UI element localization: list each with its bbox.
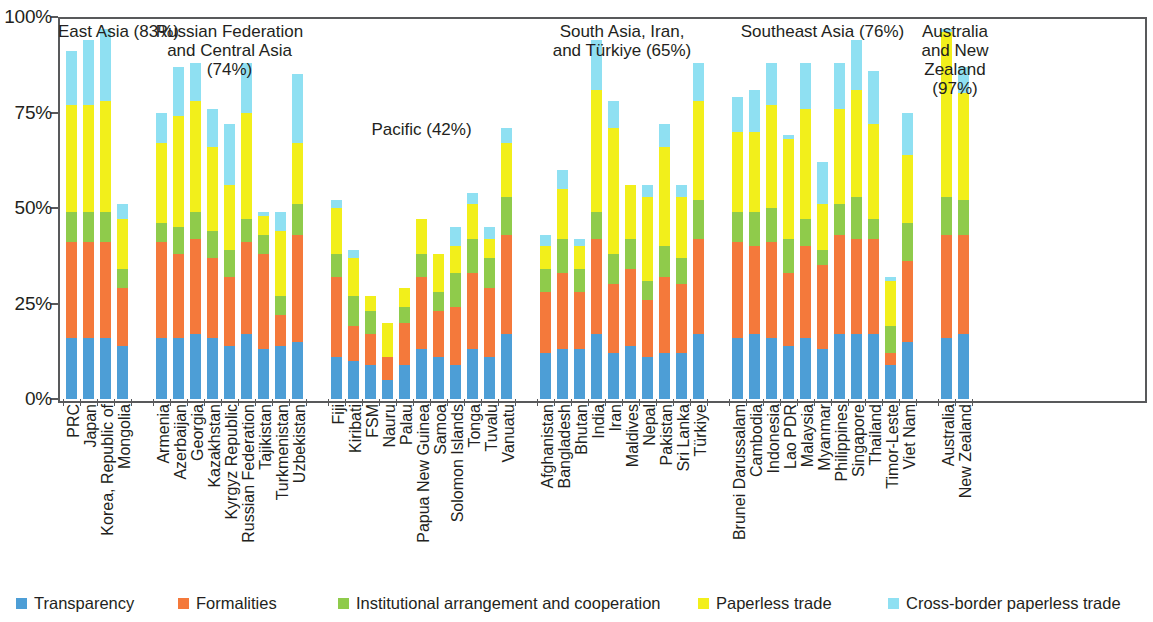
bar-segment: [416, 254, 427, 277]
bar-segment: [642, 185, 653, 196]
bar-segment: [642, 197, 653, 281]
x-axis-label-text: Bangladesh: [557, 404, 573, 489]
x-axis-label-text: Pakistan: [659, 404, 675, 465]
bar-segment: [382, 357, 393, 380]
bar-segment: [275, 231, 286, 296]
bar-segment: [885, 353, 896, 364]
legend-swatch-icon: [16, 598, 27, 609]
bar-segment: [766, 208, 777, 242]
bar-segment: [766, 338, 777, 399]
bar-segment: [207, 338, 218, 399]
bar-segment: [83, 242, 94, 338]
x-axis-label: Palau: [399, 404, 414, 554]
bar-segment: [348, 258, 359, 296]
bar-stack: [100, 17, 111, 399]
x-axis-label: Afghanistan: [540, 404, 555, 554]
x-axis-label-text: Kiribati: [348, 404, 364, 453]
x-axis-label: Nauru: [382, 404, 397, 554]
bar-segment: [156, 143, 167, 223]
bar-segment: [749, 90, 760, 132]
bar-stack: [416, 17, 427, 399]
bar-segment: [834, 63, 845, 109]
x-axis-label: New Zealand: [958, 404, 973, 554]
bar-segment: [156, 223, 167, 242]
bar-stack: [608, 17, 619, 399]
x-axis-label: Tuvalu: [484, 404, 499, 554]
bar-segment: [348, 250, 359, 258]
legend-item[interactable]: Paperless trade: [698, 594, 832, 613]
bar-segment: [676, 197, 687, 258]
x-axis-label-text: Singapore: [851, 404, 867, 477]
bar-segment: [783, 139, 794, 238]
x-axis-label-text: Fiji: [331, 404, 347, 424]
bar-segment: [958, 235, 969, 334]
x-axis-label-text: Brunei Darussalam: [732, 404, 748, 540]
bar-segment: [749, 246, 760, 334]
bar-segment: [331, 208, 342, 254]
bar-segment: [501, 197, 512, 235]
x-axis-label-text: Turkmenistan: [275, 404, 291, 500]
bar-segment: [591, 239, 602, 335]
x-axis-label: Samoa: [433, 404, 448, 554]
bar-stack: [783, 17, 794, 399]
bar-segment: [224, 346, 235, 399]
bar-stack: [885, 17, 896, 399]
bar-segment: [868, 239, 879, 335]
bar-stack: [642, 17, 653, 399]
bar-segment: [450, 307, 461, 364]
x-axis-label-text: Türkiye: [693, 404, 709, 456]
bar-segment: [941, 338, 952, 399]
x-axis-label: Malaysia: [800, 404, 815, 554]
bar-segment: [224, 250, 235, 277]
legend-item[interactable]: Formalities: [178, 594, 277, 613]
bar-segment: [800, 338, 811, 399]
bar-segment: [574, 269, 585, 292]
bar-segment: [659, 277, 670, 353]
x-axis-label-text: Solomon Islands: [450, 404, 466, 522]
x-axis-label: Japan: [83, 404, 98, 554]
x-axis-label-text: Uzbekistan: [292, 404, 308, 483]
bar-segment: [484, 239, 495, 258]
x-axis-label: Viet Nam: [902, 404, 917, 554]
bar-segment: [348, 326, 359, 360]
bar-segment: [258, 235, 269, 254]
group-title: Australia and New Zealand (97%): [900, 22, 1010, 98]
bar-segment: [501, 334, 512, 399]
x-axis-label-text: India: [591, 404, 607, 439]
bar-segment: [783, 239, 794, 273]
bar-segment: [399, 307, 410, 322]
bar-segment: [190, 101, 201, 212]
legend-item[interactable]: Institutional arrangement and cooperatio…: [338, 594, 661, 613]
x-axis-label-text: Georgia: [190, 404, 206, 461]
x-axis-label-text: Viet Nam: [902, 404, 918, 470]
bar-segment: [800, 109, 811, 220]
bar-segment: [450, 246, 461, 273]
legend-item[interactable]: Transparency: [16, 594, 134, 613]
bar-segment: [608, 284, 619, 353]
bar-segment: [557, 239, 568, 273]
bar-segment: [484, 227, 495, 238]
bar-segment: [365, 296, 376, 311]
x-axis-label-text: Sri Lanka: [676, 404, 692, 472]
bar-segment: [66, 242, 77, 338]
x-axis-label: Myanmar: [817, 404, 832, 554]
x-axis-label-text: Nauru: [382, 404, 398, 448]
x-axis-label: Solomon Islands: [450, 404, 465, 554]
bar-segment: [117, 288, 128, 345]
bar-segment: [292, 143, 303, 204]
bar-segment: [450, 227, 461, 246]
y-axis-tick-label: 75%: [0, 102, 52, 124]
x-axis-label: Uzbekistan: [292, 404, 307, 554]
x-axis-label-text: Timor-Leste: [885, 404, 901, 489]
legend-item[interactable]: Cross-border paperless trade: [888, 594, 1121, 613]
bar-segment: [275, 296, 286, 315]
bar-stack: [693, 17, 704, 399]
legend-label: Cross-border paperless trade: [906, 594, 1121, 613]
bar-segment: [958, 334, 969, 399]
bar-segment: [365, 365, 376, 399]
bar-segment: [693, 63, 704, 101]
bar-segment: [66, 212, 77, 243]
bar-segment: [625, 185, 636, 238]
legend-swatch-icon: [698, 598, 709, 609]
bar-segment: [766, 105, 777, 208]
